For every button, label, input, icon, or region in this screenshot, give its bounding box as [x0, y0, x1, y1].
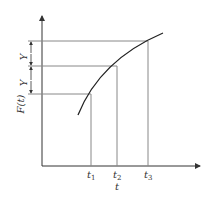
svg-text:t3: t3 [144, 169, 153, 182]
cumulative-curve-diagram: Y Y F(t) t1 t2 t3 t [0, 0, 204, 204]
interval-label-upper: Y [18, 52, 29, 60]
x-tick-t3: t3 [144, 169, 153, 182]
x-tick-t1: t1 [87, 169, 96, 182]
interval-label-lower: Y [18, 78, 29, 86]
y-axis-label: F(t) [15, 95, 26, 115]
svg-text:t1: t1 [87, 169, 96, 182]
x-axis-label: t [115, 181, 120, 192]
